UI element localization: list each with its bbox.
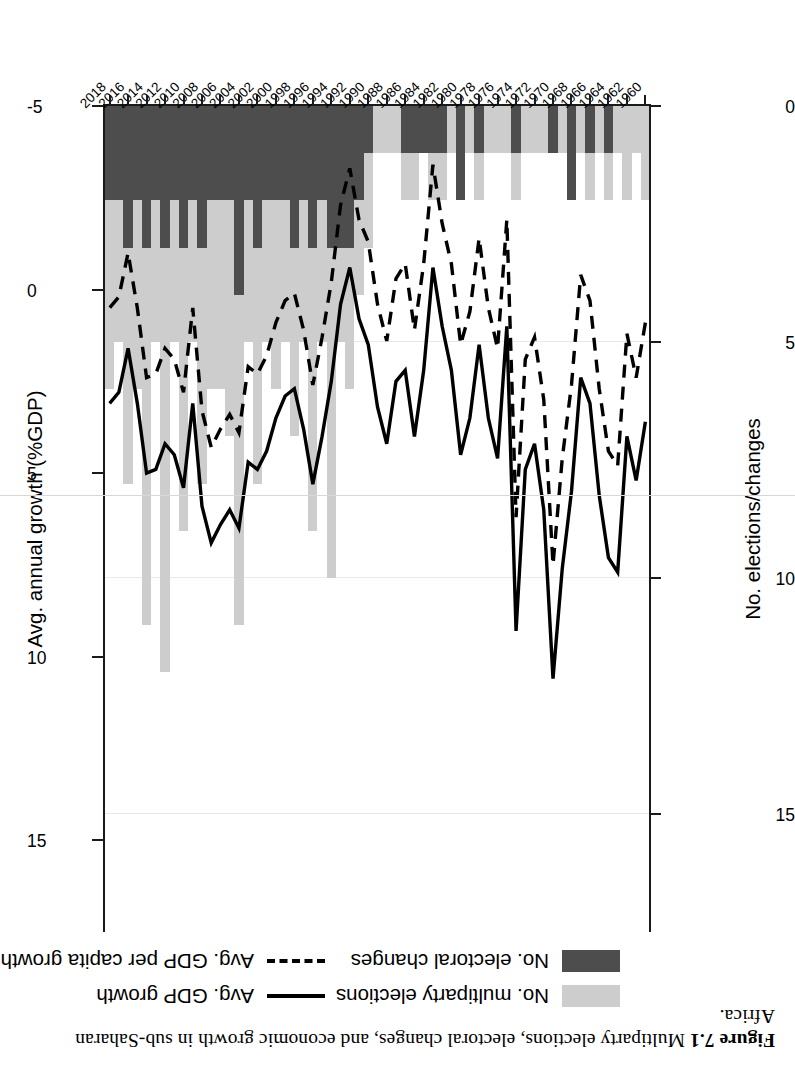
axis-tick: [650, 813, 661, 815]
axis-tick: [650, 577, 661, 579]
year-tick: [367, 95, 369, 104]
right-axis-tick-label: 10: [27, 648, 87, 669]
left-axis-tick-label: 15: [670, 805, 795, 826]
year-tick: [386, 95, 388, 104]
year-tick: [552, 95, 554, 104]
right-axis-spine: [103, 106, 105, 932]
left-axis-tick-label: 10: [670, 569, 795, 590]
left-axis-tick-label: 0: [670, 97, 795, 118]
chart-plot-area: 051015No. elections/changes-5051015Avg. …: [0, 0, 795, 1080]
right-axis-tick-label: 15: [27, 831, 87, 852]
left-axis-title: No. elections/changes: [741, 418, 765, 620]
year-tick: [256, 95, 258, 104]
year-tick: [478, 95, 480, 104]
year-tick: [312, 95, 314, 104]
year-tick: [404, 95, 406, 104]
year-tick: [127, 95, 129, 104]
figure-page: Figure 7.1 Multiparty elections, elector…: [0, 0, 795, 1080]
year-tick: [146, 95, 148, 104]
year-tick: [644, 95, 646, 104]
year-tick: [497, 95, 499, 104]
year-tick: [219, 95, 221, 104]
axis-tick: [92, 839, 103, 841]
year-tick: [330, 95, 332, 104]
year-tick: [626, 95, 628, 104]
year-tick: [570, 95, 572, 104]
year-tick: [349, 95, 351, 104]
year-tick: [201, 95, 203, 104]
scan-artifact-line: [0, 495, 795, 496]
line-series-layer: [0, 0, 795, 1080]
year-tick: [238, 95, 240, 104]
year-tick: [515, 95, 517, 104]
year-tick: [441, 95, 443, 104]
line-gdp-per-capita-growth: [110, 165, 646, 565]
right-axis-title: Avg. annual growth (%GDP): [23, 390, 47, 647]
axis-tick: [92, 472, 103, 474]
year-tick: [589, 95, 591, 104]
left-axis-spine: [649, 106, 651, 932]
year-tick: [293, 95, 295, 104]
right-axis-tick-label: 0: [27, 281, 87, 302]
left-axis-tick-label: 5: [670, 333, 795, 354]
year-tick: [534, 95, 536, 104]
year-tick: [183, 95, 185, 104]
year-tick: [109, 95, 111, 104]
axis-tick: [650, 105, 661, 107]
year-tick: [423, 95, 425, 104]
year-tick: [460, 95, 462, 104]
axis-tick: [92, 656, 103, 658]
year-tick: [607, 95, 609, 104]
year-tick: [275, 95, 277, 104]
axis-tick: [650, 341, 661, 343]
axis-tick: [92, 289, 103, 291]
year-tick: [164, 95, 166, 104]
